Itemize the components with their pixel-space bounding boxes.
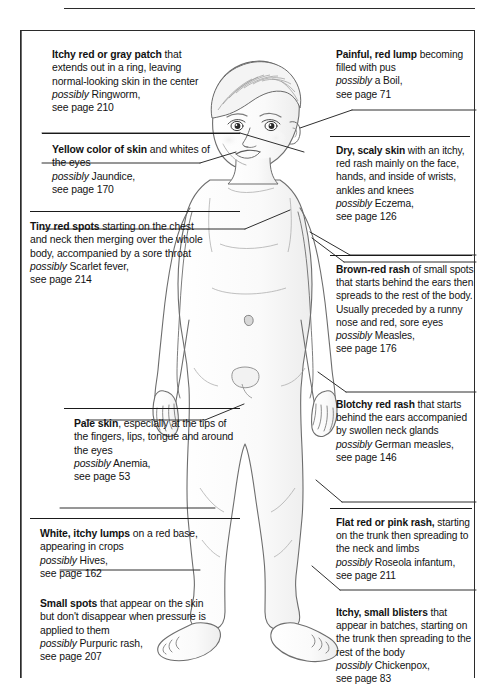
annotation-scarlet-fever: Tiny red spots starting on the chest and… bbox=[30, 220, 212, 286]
annotation-scarlet-fever-condition: Scarlet fever, bbox=[67, 261, 129, 272]
divider-jaundice-scarlet bbox=[30, 211, 240, 212]
divider-ringworm-jaundice bbox=[42, 133, 240, 134]
annotation-chickenpox-possibly: possibly bbox=[336, 660, 372, 671]
annotation-boil-bold: Painful, red lump bbox=[336, 49, 417, 60]
annotation-ringworm-possibly: possibly bbox=[52, 89, 89, 100]
annotation-hives-possibly: possibly bbox=[40, 555, 77, 566]
annotation-anemia-page: see page 53 bbox=[74, 471, 130, 482]
annotation-boil-condition: a Boil, bbox=[372, 75, 402, 86]
annotation-measles-page: see page 176 bbox=[336, 343, 397, 354]
divider-german-roseola bbox=[330, 508, 472, 509]
annotation-measles: Brown-red rash of small spots that start… bbox=[336, 263, 476, 355]
annotation-jaundice-bold: Yellow color of skin bbox=[52, 144, 147, 155]
annotation-roseola-possibly: possibly bbox=[336, 557, 372, 568]
annotation-roseola: Flat red or pink rash, starting on the t… bbox=[336, 516, 476, 582]
annotation-roseola-page: see page 211 bbox=[336, 570, 396, 581]
top-rule bbox=[64, 8, 475, 9]
annotation-boil: Painful, red lump becoming filled with p… bbox=[336, 48, 474, 101]
annotation-boil-possibly: possibly bbox=[336, 75, 372, 86]
annotation-ringworm-bold: Itchy red or gray patch bbox=[52, 49, 162, 60]
annotation-scarlet-fever-page: see page 214 bbox=[30, 274, 92, 285]
annotation-purpuric-rash-page: see page 207 bbox=[40, 651, 102, 662]
annotation-hives: White, itchy lumps on a red base, appear… bbox=[40, 527, 210, 580]
annotation-purpuric-rash: Small spots that appear on the skin but … bbox=[40, 597, 212, 663]
annotation-jaundice-condition: Jaundice, bbox=[89, 171, 135, 182]
annotation-eczema-condition: Eczema, bbox=[372, 198, 414, 209]
divider-scarlet-pale bbox=[64, 408, 240, 409]
annotation-anemia-bold: Pale skin bbox=[74, 418, 118, 429]
divider-pale-hives bbox=[30, 518, 240, 519]
annotation-jaundice-page: see page 170 bbox=[52, 184, 114, 195]
annotation-measles-possibly: possibly bbox=[336, 330, 372, 341]
annotation-hives-bold: White, itchy lumps bbox=[40, 528, 130, 539]
annotation-purpuric-rash-condition: Purpuric rash, bbox=[77, 638, 143, 649]
annotation-chickenpox: Itchy, small blisters that appear in bat… bbox=[336, 606, 478, 685]
annotation-jaundice-possibly: possibly bbox=[52, 171, 89, 182]
annotation-chickenpox-condition: Chickenpox, bbox=[372, 660, 430, 671]
annotation-chickenpox-page: see page 83 bbox=[336, 673, 391, 684]
annotation-anemia: Pale skin, especially at the tips of the… bbox=[74, 417, 240, 483]
divider-eczema-measles bbox=[330, 255, 472, 256]
annotation-ringworm-page: see page 210 bbox=[52, 102, 114, 113]
annotation-scarlet-fever-bold: Tiny red spots bbox=[30, 221, 99, 232]
annotation-roseola-condition: Roseola infantum, bbox=[372, 557, 455, 568]
annotation-anemia-condition: Anemia, bbox=[111, 458, 151, 469]
annotation-hives-condition: Hives, bbox=[77, 555, 108, 566]
annotation-purpuric-rash-possibly: possibly bbox=[40, 638, 77, 649]
annotation-eczema-page: see page 126 bbox=[336, 211, 397, 222]
annotation-chickenpox-bold: Itchy, small blisters bbox=[336, 607, 428, 618]
annotation-ringworm-condition: Ringworm, bbox=[89, 89, 141, 100]
annotation-roseola-bold: Flat red or pink rash, bbox=[336, 517, 435, 528]
frame-inner-left-rule bbox=[21, 31, 22, 678]
annotation-german-measles-page: see page 146 bbox=[336, 452, 397, 463]
annotation-anemia-possibly: possibly bbox=[74, 458, 111, 469]
annotation-german-measles-bold: Blotchy red rash bbox=[336, 399, 415, 410]
annotation-german-measles: Blotchy red rash that starts behind the … bbox=[336, 398, 474, 464]
annotation-eczema-bold: Dry, scaly skin bbox=[336, 145, 405, 156]
annotation-scarlet-fever-possibly: possibly bbox=[30, 261, 67, 272]
annotation-hives-page: see page 162 bbox=[40, 568, 102, 579]
annotation-ringworm: Itchy red or gray patch that extends out… bbox=[52, 48, 212, 114]
annotation-measles-condition: Measles, bbox=[372, 330, 415, 341]
divider-boil-eczema bbox=[330, 136, 470, 137]
annotation-boil-page: see page 71 bbox=[336, 89, 391, 100]
annotation-jaundice: Yellow color of skin and whites of the e… bbox=[52, 143, 212, 196]
annotation-purpuric-rash-bold: Small spots bbox=[40, 598, 97, 609]
annotation-german-measles-condition: German measles, bbox=[372, 439, 454, 450]
annotation-german-measles-possibly: possibly bbox=[336, 439, 372, 450]
annotation-measles-bold: Brown-red rash bbox=[336, 264, 410, 275]
annotation-eczema-possibly: possibly bbox=[336, 198, 372, 209]
annotation-eczema: Dry, scaly skin with an itchy, red rash … bbox=[336, 144, 476, 223]
